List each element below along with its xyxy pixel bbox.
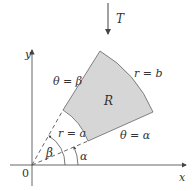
- origin-label: 0: [22, 167, 29, 180]
- x-axis-label: x: [179, 171, 186, 184]
- outer-arc-label: r = b: [134, 67, 163, 80]
- upper-ray-label: θ = β: [53, 75, 82, 88]
- lower-ray-label: θ = α: [120, 129, 151, 142]
- polar-region-diagram: T y x 0 θ = β r = b R r = a θ = α β α: [0, 0, 194, 191]
- region-label: R: [103, 94, 113, 108]
- y-axis-label: y: [24, 48, 32, 61]
- angle-beta-label: β: [45, 146, 53, 160]
- angle-alpha-label: α: [80, 150, 88, 163]
- transform-label: T: [116, 12, 125, 26]
- angle-alpha-arc: [74, 147, 78, 165]
- inner-arc-label: r = a: [58, 127, 86, 140]
